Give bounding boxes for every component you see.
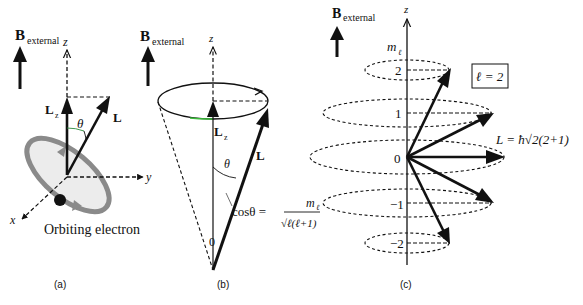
formula-num-sub: ℓ: [316, 203, 320, 212]
cone-edge: [158, 102, 213, 270]
m-label: m: [387, 39, 396, 54]
l-vectors: [407, 80, 488, 232]
b-label: B: [140, 28, 150, 44]
y-label: y: [145, 170, 152, 184]
formula-lhs: cosθ =: [232, 204, 266, 219]
x-label: x: [9, 213, 16, 227]
angular-momentum-diagram: B external z L z L θ y: [0, 0, 583, 305]
electron-caption: Orbiting electron: [44, 222, 140, 237]
caption-b: (b): [217, 279, 229, 290]
lz-label-sub: z: [224, 133, 228, 142]
lz-label: L: [45, 102, 54, 117]
level-label-0: 0: [394, 151, 401, 166]
formula-num: m: [306, 196, 315, 210]
b-label: B: [15, 27, 25, 43]
theta-label: θ: [77, 116, 84, 131]
panel-c: B external z m ℓ 2 1 0 −1 −2: [310, 3, 569, 290]
caption-c: (c): [400, 279, 412, 290]
b-label-sub: external: [152, 36, 184, 47]
z-label: z: [62, 35, 68, 49]
lz-label-sub: z: [55, 111, 59, 120]
z-label: z: [208, 32, 214, 44]
level-label-neg1: −1: [390, 197, 404, 212]
b-external-arrow: [141, 46, 155, 86]
b-label-sub: external: [343, 12, 375, 23]
z-label: z: [403, 3, 409, 15]
b-external-arrow: [13, 46, 27, 89]
origin-label: 0: [209, 235, 215, 249]
formula-den: √ℓ(ℓ+1): [281, 217, 317, 230]
caption-a: (a): [54, 279, 66, 290]
lz-label: L: [214, 124, 223, 139]
panel-a: B external z L z L θ y: [9, 27, 152, 290]
lz-arrowhead: [207, 101, 219, 117]
cos-theta-formula: cosθ = m ℓ √ℓ(ℓ+1): [232, 196, 320, 230]
b-label: B: [332, 6, 341, 21]
electron: [54, 194, 66, 206]
b-label-sub: external: [27, 35, 59, 46]
l-label: L: [113, 110, 122, 125]
l-value-label: ℓ = 2: [476, 69, 504, 84]
panel-b: B external z L z L θ cosθ = m: [140, 28, 320, 290]
l-magnitude-formula: L = ħ√2(2+1): [495, 132, 569, 147]
level-label-1: 1: [395, 106, 402, 121]
theta-label: θ: [224, 157, 230, 171]
m-label-sub: ℓ: [398, 48, 402, 57]
precession-arrowhead: [254, 88, 262, 95]
level-label-2: 2: [395, 63, 402, 78]
l-label: L: [256, 148, 265, 163]
b-external-arrow: [330, 26, 344, 57]
level-label-neg2: −2: [390, 236, 404, 251]
